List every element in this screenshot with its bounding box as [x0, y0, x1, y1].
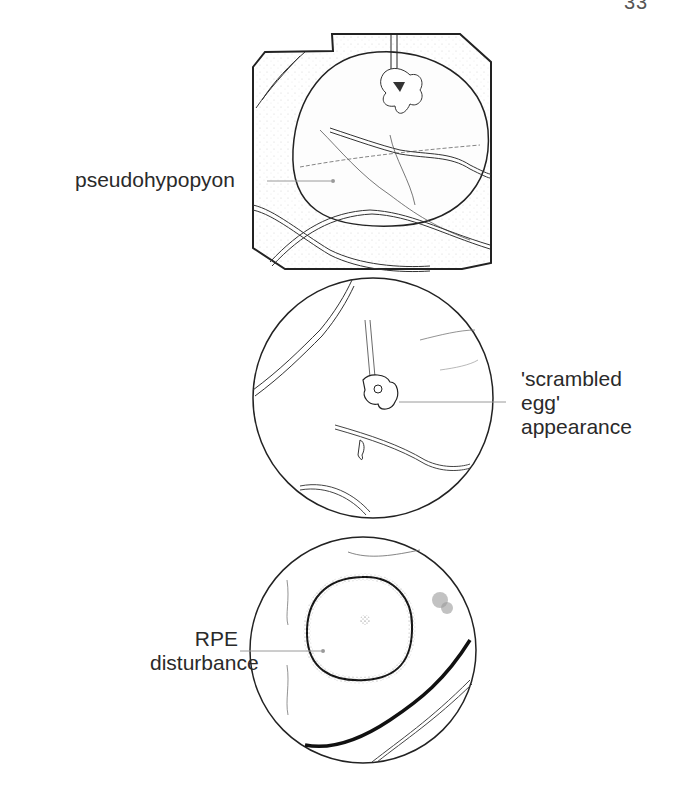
label-scrambled-egg: 'scrambled egg' appearance	[521, 367, 632, 439]
label-line: 'scrambled	[521, 367, 632, 391]
label-pseudohypopyon: pseudohypopyon	[75, 168, 235, 192]
panel-pseudohypopyon	[253, 34, 491, 272]
label-rpe-disturbance: RPE disturbance	[150, 627, 238, 675]
panel-rpe-disturbance	[240, 537, 476, 763]
label-line: egg'	[521, 391, 632, 415]
label-line: disturbance	[150, 651, 238, 675]
panel-scrambled-egg	[253, 278, 506, 518]
label-line: appearance	[521, 415, 632, 439]
label-line: RPE	[150, 627, 238, 651]
